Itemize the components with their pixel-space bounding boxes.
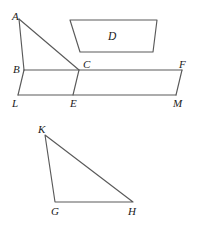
vertex-label-e: E — [70, 98, 77, 109]
vertex-label-g: G — [51, 206, 59, 217]
triangle-abc — [19, 19, 79, 70]
geometry-drawing — [0, 0, 199, 229]
triangle-kgh — [45, 135, 133, 202]
region-label-d: D — [108, 31, 116, 43]
vertex-label-b: B — [13, 64, 20, 75]
vertex-label-a: A — [12, 11, 19, 22]
vertex-label-l: L — [12, 98, 18, 109]
geometry-figure-canvas: A B C D E F G H K L M — [0, 0, 199, 229]
parallelogram-band — [18, 70, 182, 95]
vertex-label-m: M — [173, 98, 182, 109]
edge-a-c — [19, 19, 79, 70]
parallelogram-band-face — [18, 70, 182, 95]
vertex-label-f: F — [179, 59, 186, 70]
vertex-label-k: K — [38, 124, 45, 135]
vertex-label-c: C — [83, 59, 90, 70]
vertex-label-h: H — [128, 206, 136, 217]
